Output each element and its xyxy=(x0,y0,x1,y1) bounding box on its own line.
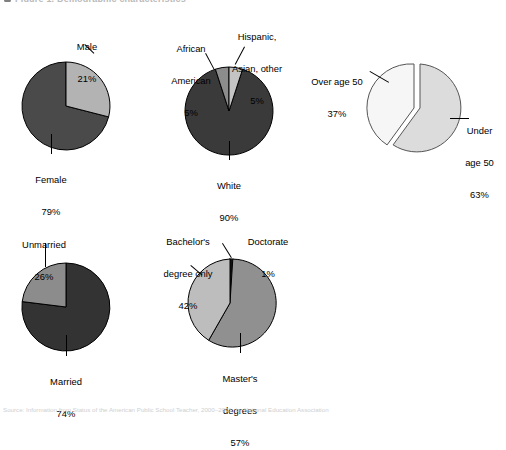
label-bachelors-line2: degree only xyxy=(145,269,231,280)
label-unmarried: Unmarried 26% xyxy=(4,218,84,304)
label-male-value: 21% xyxy=(56,74,118,85)
label-married-name: Married xyxy=(34,377,98,388)
chart-age: Over age 50 37% Under age 50 63% xyxy=(310,0,506,200)
label-over50-value: 37% xyxy=(298,109,376,120)
label-under50-value: 63% xyxy=(453,190,506,201)
label-doctorate: Doctorate 1% xyxy=(233,215,303,301)
label-married: Married 74% xyxy=(34,355,98,441)
label-under50-line1: Under xyxy=(453,126,506,137)
label-bachelors-value: 42% xyxy=(145,301,231,312)
label-over-age-50: Over age 50 37% xyxy=(298,55,376,141)
label-masters-value: 57% xyxy=(207,438,273,449)
leader-female xyxy=(51,134,52,154)
label-hao-value: 5% xyxy=(215,96,299,107)
label-hao-line2: Asian, other xyxy=(215,64,299,75)
label-masters: Master's degrees 57% xyxy=(207,352,273,450)
chart-marital-status: Unmarried 26% Married 74% xyxy=(0,205,160,405)
label-unmarried-value: 26% xyxy=(4,272,84,283)
label-under-age-50: Under age 50 63% xyxy=(453,104,506,223)
leader-masters xyxy=(240,333,241,353)
label-female-name: Female xyxy=(19,175,83,186)
label-bachelors-line1: Bachelor's xyxy=(145,237,231,248)
leader-unmarried xyxy=(45,243,46,267)
label-hispanic-asian-other: Hispanic, Asian, other 5% xyxy=(215,10,299,129)
source-note: Source: Information from Status of the A… xyxy=(3,406,503,414)
label-masters-line1: Master's xyxy=(207,374,273,385)
label-unmarried-name: Unmarried xyxy=(4,240,84,251)
label-white-name: White xyxy=(197,181,261,192)
label-doctorate-name: Doctorate xyxy=(233,237,303,248)
leader-white xyxy=(229,141,230,160)
chart-race-ethnicity: African American 5% Hispanic, Asian, oth… xyxy=(160,0,310,200)
label-hao-line1: Hispanic, xyxy=(215,32,299,43)
label-doctorate-value: 1% xyxy=(233,269,303,280)
label-male: Male 21% xyxy=(56,20,118,106)
leader-married xyxy=(66,335,67,356)
label-under50-line2: age 50 xyxy=(453,158,506,169)
chart-education: Bachelor's degree only 42% Doctorate 1% … xyxy=(155,205,330,410)
label-bachelors: Bachelor's degree only 42% xyxy=(145,215,231,334)
chart-gender: Male 21% Female 79% xyxy=(0,0,160,200)
label-over50-name: Over age 50 xyxy=(298,77,376,88)
